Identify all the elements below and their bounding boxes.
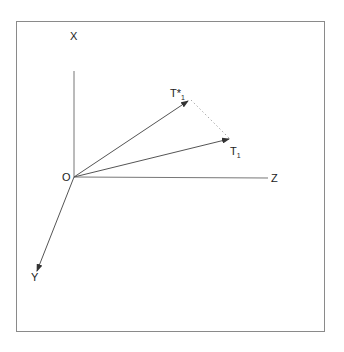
dotted-connector: [191, 100, 229, 138]
axis-label-x: X: [70, 31, 77, 42]
vector-label-t-star-main: T*: [170, 87, 181, 99]
axis-label-z: Z: [271, 173, 278, 184]
origin-label-text: O: [62, 171, 71, 183]
vector-t-1: [74, 139, 229, 177]
vector-label-t-star-sub: 1: [181, 94, 185, 101]
vector-t-star-1: [74, 101, 188, 177]
vector-label-t-sub: 1: [237, 152, 241, 159]
vector-label-t-1: T1: [230, 146, 241, 159]
y-axis-line: [37, 177, 74, 271]
axis-label-x-text: X: [70, 30, 77, 42]
axis-label-z-text: Z: [271, 172, 278, 184]
z-axis-line: [74, 177, 268, 178]
axis-label-y-text: Y: [31, 271, 38, 283]
origin-label: O: [62, 172, 71, 183]
vector-label-t-main: T: [230, 145, 237, 157]
vector-diagram: [0, 0, 344, 352]
vector-label-t-star-1: T*1: [170, 88, 185, 101]
axis-label-y: Y: [31, 272, 38, 283]
